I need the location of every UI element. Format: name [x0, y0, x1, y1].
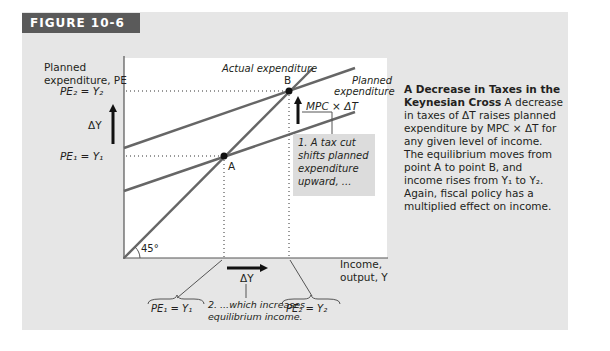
planned-expenditure-label-line2: expenditure — [334, 86, 395, 97]
shift-label: MPC × ΔT — [306, 100, 358, 112]
actual-expenditure-line — [124, 68, 313, 258]
x-axis-label-line1: Income, — [340, 258, 382, 271]
note1: 1. A tax cut shifts planned expenditure … — [298, 136, 369, 188]
brace2-label: PE₂ = Y₂ — [286, 303, 327, 314]
planned-expenditure-label-line1: Planned — [352, 75, 392, 86]
y-tick-pe1: PE₁ = Y₁ — [60, 150, 103, 162]
brace1-label: PE₁ = Y₁ — [151, 303, 192, 314]
caption-body: A decrease in taxes of ΔT raises planned… — [404, 96, 563, 212]
point-b-label: B — [284, 74, 291, 86]
x-axis-label-line2: output, Y — [340, 271, 388, 284]
actual-expenditure-label: Actual expenditure — [222, 63, 317, 74]
point-b — [286, 88, 293, 95]
y-axis-label-line1: Planned — [44, 61, 86, 74]
angle-label: 45° — [141, 243, 159, 254]
delta-y-label: ΔY — [88, 119, 102, 131]
point-a-label: A — [228, 160, 235, 172]
figure-caption: A Decrease in Taxes in the Keynesian Cro… — [404, 83, 564, 213]
y-tick-pe2: PE₂ = Y₂ — [60, 85, 103, 97]
x-delta-label: ΔY — [240, 272, 254, 284]
point-a — [221, 153, 228, 160]
